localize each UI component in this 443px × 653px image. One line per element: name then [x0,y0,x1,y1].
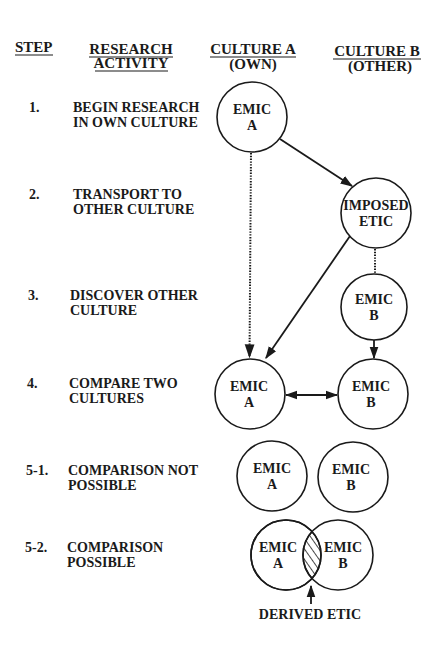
node-label-line2: A [244,395,255,410]
node-label-line1: IMPOSED [343,198,408,213]
step-activity-line1: BEGIN RESEARCH [73,100,200,115]
node-step4-emic-a: EMIC A [215,359,285,429]
derived-etic-label: DERIVED ETIC [259,607,361,622]
step-activity-line2: POSSIBLE [67,555,135,570]
node-label-line1: EMIC [230,379,268,394]
step-2: 2. TRANSPORT TO OTHER CULTURE [29,187,194,217]
node-step1-emic-a: EMIC A [217,82,287,152]
header-culture-b-line2: (OTHER) [348,58,412,75]
step-number: 2. [29,187,40,202]
node-label-line1: EMIC [253,461,291,476]
step-number: 4. [27,376,38,391]
node-step51-emic-b: EMIC B [318,442,388,512]
step-activity-line1: COMPARISON NOT [68,463,199,478]
dotted-arrow-emic-a-to-emic-a [250,153,252,357]
header-culture-a-line2: (OWN) [229,56,277,73]
arrow-imposed-etic-to-emic-a [266,236,350,358]
node-label-line1: EMIC [352,379,390,394]
node-label-line1: EMIC [355,292,393,307]
step-activity-line1: TRANSPORT TO [73,187,182,202]
node-label-emic-b-line1: EMIC [324,540,362,555]
step-number: 1. [29,100,40,115]
node-label-line2: A [247,118,258,133]
header-step: STEP [15,39,53,55]
node-label-emic-a-line1: EMIC [259,540,297,555]
node-step4-emic-b: EMIC B [338,359,408,429]
step-activity-line1: COMPARISON [67,540,163,555]
step-number: 3. [28,288,39,303]
arrow-emic-a-to-imposed-etic [280,139,352,186]
node-label-emic-b-line2: B [338,556,347,571]
step-3: 3. DISCOVER OTHER CULTURE [28,288,199,318]
step-activity-line2: OTHER CULTURE [73,202,194,217]
node-label-line2: ETIC [359,214,393,229]
node-step52-venn: EMIC A EMIC B [251,520,373,590]
step-number: 5-2. [25,540,47,555]
step-activity-line2: POSSIBLE [68,478,136,493]
node-step3-emic-b: EMIC B [341,274,407,340]
node-step51-emic-a: EMIC A [237,441,307,511]
node-label-line1: EMIC [233,102,271,117]
step-activity-line1: DISCOVER OTHER [70,288,199,303]
node-label-line1: EMIC [332,462,370,477]
step-5-1: 5-1. COMPARISON NOT POSSIBLE [26,463,199,493]
node-step2-imposed-etic: IMPOSED ETIC [341,178,411,248]
step-5-2: 5-2. COMPARISON POSSIBLE [25,540,163,570]
node-label-line2: B [346,478,355,493]
step-activity-line2: CULTURE [70,303,137,318]
connectors [250,139,376,395]
node-label-line2: A [267,477,278,492]
emic-etic-research-diagram: STEP RESEARCH ACTIVITY CULTURE A (OWN) C… [0,0,443,653]
node-label-line2: B [369,308,378,323]
column-headers: STEP RESEARCH ACTIVITY CULTURE A (OWN) C… [15,39,421,75]
step-activity-line2: CULTURES [69,391,144,406]
step-1: 1. BEGIN RESEARCH IN OWN CULTURE [29,100,200,130]
step-number: 5-1. [26,463,48,478]
node-label-emic-a-line2: A [273,556,284,571]
step-4: 4. COMPARE TWO CULTURES [27,376,178,406]
header-culture-b-line1: CULTURE B [334,43,420,59]
step-activity-line2: IN OWN CULTURE [73,115,198,130]
node-label-line2: B [366,395,375,410]
header-activity-line2: ACTIVITY [93,55,168,71]
step-activity-line1: COMPARE TWO [69,376,178,391]
header-culture-a-line1: CULTURE A [210,41,296,57]
